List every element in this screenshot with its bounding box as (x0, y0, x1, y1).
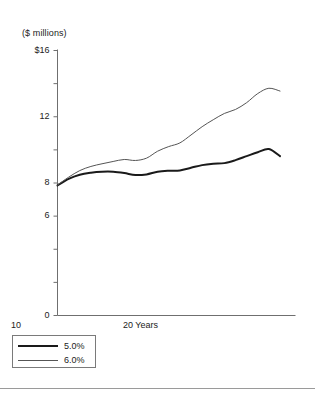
legend-label-series-0: 5.0% (64, 341, 85, 351)
x-axis-tick-label: 10 (11, 320, 21, 330)
legend-line-icon-series-1 (18, 354, 58, 366)
y-axis-tick-label: 6 (0, 210, 50, 220)
series-line-0 (58, 149, 281, 186)
legend-line-icon-series-0 (18, 340, 58, 352)
y-axis-tick-label: $16 (0, 45, 50, 55)
legend-label-series-1: 6.0% (64, 355, 85, 365)
chart-figure: ($ millions) 5.0% 6.0% 06812$161020 Year… (0, 0, 315, 395)
y-axis-tick-label: 0 (0, 310, 50, 320)
chart-legend: 5.0% 6.0% (12, 335, 96, 368)
y-axis-tick-label: 8 (0, 177, 50, 187)
footer-divider (0, 388, 315, 389)
x-axis-tick-label: 20 Years (123, 320, 158, 330)
legend-item-series-1[interactable]: 6.0% (13, 353, 95, 367)
legend-item-series-0[interactable]: 5.0% (13, 339, 95, 353)
y-axis-tick-label: 12 (0, 111, 50, 121)
